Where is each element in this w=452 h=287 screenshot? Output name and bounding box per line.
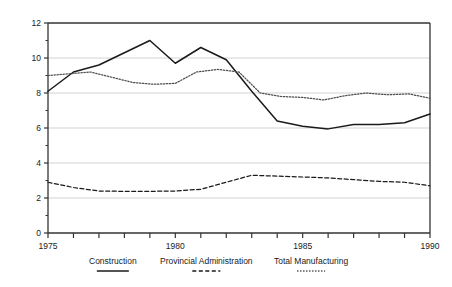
- y-tick-label-12: 12: [32, 18, 42, 28]
- y-tick-label-4: 4: [36, 158, 41, 168]
- y-tick-label-0: 0: [36, 228, 41, 238]
- legend-label-construction: Construction: [89, 256, 137, 266]
- y-tick-label-6: 6: [36, 123, 41, 133]
- legend-label-provincial-administration: Provincial Administration: [160, 256, 253, 266]
- y-tick-label-2: 2: [36, 193, 41, 203]
- x-tick-label-1985: 1985: [293, 241, 312, 251]
- y-tick-label-10: 10: [32, 53, 42, 63]
- legend-label-total-manufacturing: Total Manufacturing: [274, 256, 348, 266]
- x-tick-label-1975: 1975: [39, 241, 58, 251]
- line-chart-svg: 024681012 1975198019851990 ConstructionP…: [0, 0, 452, 287]
- chart-figure: 024681012 1975198019851990 ConstructionP…: [0, 0, 452, 287]
- y-tick-label-8: 8: [36, 88, 41, 98]
- chart-background: [0, 0, 452, 287]
- x-tick-label-1990: 1990: [421, 241, 440, 251]
- x-tick-label-1980: 1980: [166, 241, 185, 251]
